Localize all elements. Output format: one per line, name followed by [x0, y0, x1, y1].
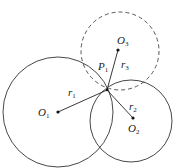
- point-o2-dot: [131, 116, 134, 119]
- point-o3-dot: [116, 48, 119, 51]
- label-o1: O1: [38, 106, 50, 120]
- label-r1: r1: [68, 86, 76, 100]
- point-p1-dot: [106, 89, 108, 91]
- three-circles-diagram: O1 O2 O3 P1 r1 r2 r3: [0, 0, 175, 168]
- label-o3: O3: [117, 34, 129, 48]
- label-r3: r3: [121, 58, 129, 72]
- label-o2: O2: [128, 122, 140, 136]
- radius-r1: [58, 90, 107, 112]
- label-r2: r2: [129, 100, 137, 114]
- point-o1-dot: [56, 110, 59, 113]
- label-p1: P1: [97, 60, 109, 74]
- circle-3-dashed: [81, 12, 159, 90]
